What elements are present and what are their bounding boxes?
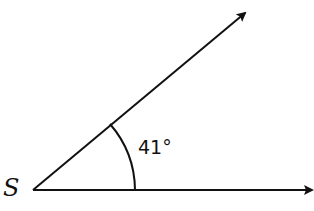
ray-upper bbox=[33, 13, 245, 190]
angle-diagram bbox=[0, 0, 314, 211]
angle-label: 41° bbox=[138, 137, 172, 157]
vertex-label: S bbox=[3, 176, 19, 200]
angle-arc bbox=[110, 124, 135, 190]
